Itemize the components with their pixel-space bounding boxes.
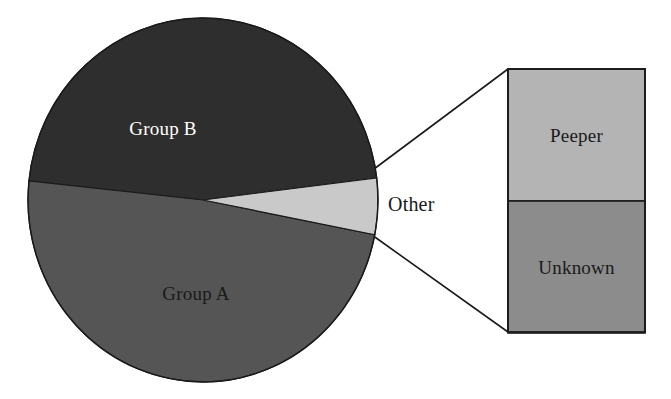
bar-label-unknown: Unknown (538, 257, 615, 278)
breakout-stacked-bar (508, 69, 645, 333)
chart-container: Group B Group A Other Peeper Unknown (0, 0, 671, 399)
pie-of-pie-chart: Group B Group A Other Peeper Unknown (0, 0, 671, 399)
pie-label-group-a: Group A (162, 283, 229, 304)
bar-label-peeper: Peeper (550, 125, 603, 146)
pie-label-other: Other (388, 193, 435, 215)
pie-label-group-b: Group B (129, 118, 196, 139)
pie-group (28, 18, 378, 382)
